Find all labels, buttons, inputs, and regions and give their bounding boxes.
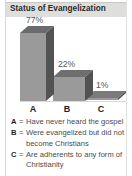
bar-a-front: [20, 33, 46, 101]
value-label-b: 22%: [58, 59, 75, 69]
legend-text-c: Are adherents to any form of Christianit…: [26, 150, 127, 171]
legend-text-a: Have never heard the gospel: [26, 117, 127, 128]
bar-b-group: [53, 70, 93, 101]
value-label-a: 77%: [26, 15, 43, 25]
value-label-c: 1%: [96, 80, 108, 90]
legend-equals-c: =: [16, 150, 25, 161]
axis-label-a: A: [24, 104, 42, 114]
legend-item-a: A = Have never heard the gospel: [11, 117, 127, 128]
legend-equals-a: =: [16, 117, 25, 128]
legend-item-b: B = Were evangelized but did not become …: [11, 128, 127, 149]
legend-text-b: Were evangelized but did not become Chri…: [26, 128, 127, 149]
chart-baseline: [20, 101, 126, 102]
bar-b-front: [53, 77, 85, 101]
chart-legend: A = Have never heard the gospel B = Were…: [11, 117, 127, 171]
axis-label-b: B: [58, 104, 76, 114]
bar-c-front: [86, 98, 118, 100]
bar-a-side: [46, 26, 54, 101]
evangelization-chart-panel: Status of Evangelization: [0, 0, 132, 176]
legend-equals-b: =: [16, 128, 25, 139]
axis-label-c: C: [92, 104, 110, 114]
chart-plot-area: 77% 22% 1% A B C: [0, 0, 132, 118]
legend-item-c: C = Are adherents to any form of Christi…: [11, 150, 127, 171]
bar-a-group: [20, 26, 54, 101]
